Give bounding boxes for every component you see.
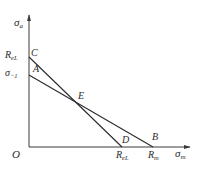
point-E-label: E bbox=[77, 90, 84, 101]
point-B-label: B bbox=[152, 131, 158, 142]
y-tick-ReL: ReL bbox=[4, 49, 18, 61]
point-C-label: C bbox=[31, 47, 38, 58]
haigh-diagram: σa σm O ReL σ−1 ReL Rm C A E D B bbox=[0, 0, 205, 171]
line-CD bbox=[29, 57, 122, 147]
point-A-label: A bbox=[32, 63, 40, 74]
x-tick-ReL: ReL bbox=[115, 149, 129, 161]
x-tick-Rm: Rm bbox=[147, 149, 159, 161]
y-tick-sigma-1: σ−1 bbox=[5, 67, 18, 79]
origin-label: O bbox=[12, 148, 20, 160]
line-AB bbox=[29, 75, 153, 147]
y-axis-label: σa bbox=[14, 16, 23, 30]
x-axis-label: σm bbox=[175, 147, 186, 161]
point-D-label: D bbox=[121, 134, 130, 145]
